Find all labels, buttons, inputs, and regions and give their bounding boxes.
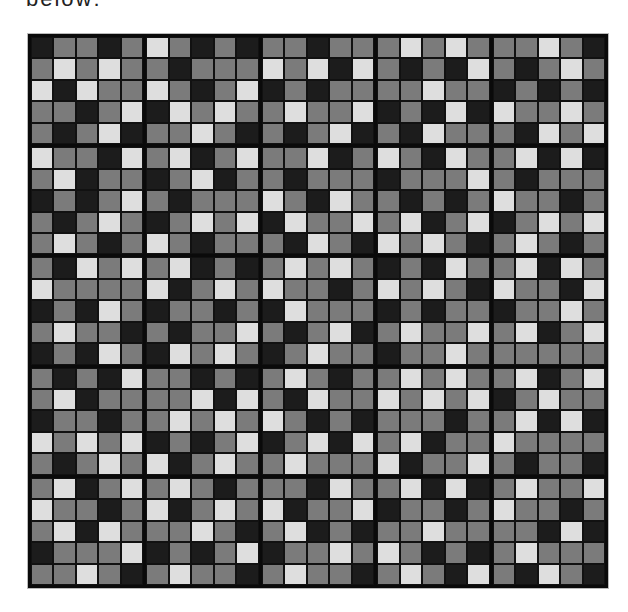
grid-cell [263,258,283,277]
grid-cell [401,38,421,57]
grid-cell [494,411,514,430]
grid-cell [263,102,283,121]
grid-cell [468,301,488,320]
grid-cell [285,522,305,541]
grid-cell [378,258,398,277]
grid-cell [584,124,604,143]
grid-cell [378,390,398,409]
grid-cell [378,565,398,584]
grid-cell [32,500,52,519]
grid-cell [494,148,514,167]
grid-block [262,478,374,585]
grid-cell [308,323,328,342]
grid-cell [516,258,536,277]
grid-cell [192,102,212,121]
grid-cell [285,500,305,519]
grid-cell [170,454,190,473]
grid-cell [353,565,373,584]
grid-cell [215,390,235,409]
grid-cell [77,479,97,498]
grid-cell [330,411,350,430]
grid-cell [308,479,328,498]
grid-cell [122,433,142,452]
grid-cell [32,543,52,562]
grid-cell [308,433,328,452]
grid-cell [308,234,328,253]
grid-cell [99,191,119,210]
grid-cell [285,170,305,189]
grid-cell [330,522,350,541]
grid-cell [215,479,235,498]
grid-cell [378,191,398,210]
grid-cell [54,500,74,519]
grid-cell [584,213,604,232]
grid-cell [561,280,581,299]
grid-cell [77,102,97,121]
grid-cell [99,148,119,167]
grid-cell [401,280,421,299]
grid-block [146,37,258,144]
grid-cell [516,565,536,584]
grid-cell [77,170,97,189]
grid-cell [215,81,235,100]
grid-cell [401,234,421,253]
grid-cell [308,344,328,363]
grid-cell [423,543,443,562]
grid-cell [32,102,52,121]
grid-cell [468,170,488,189]
grid-block [377,257,489,364]
grid-cell [77,344,97,363]
grid-cell [54,565,74,584]
grid-block [146,257,258,364]
grid-cell [330,454,350,473]
grid-cell [446,258,466,277]
grid-cell [423,170,443,189]
grid-cell [308,213,328,232]
grid-cell [237,500,257,519]
grid-cell [77,433,97,452]
grid-cell [516,522,536,541]
grid-cell [237,38,257,57]
grid-cell [32,234,52,253]
grid-cell [401,454,421,473]
grid-cell [99,59,119,78]
grid-cell [423,411,443,430]
grid-cell [215,500,235,519]
grid-cell [401,369,421,388]
grid-cell [330,543,350,562]
grid-cell [516,344,536,363]
grid-cell [401,59,421,78]
grid-cell [516,479,536,498]
grid-cell [32,390,52,409]
grid-cell [539,213,559,232]
grid-cell [122,344,142,363]
grid-cell [539,390,559,409]
grid-cell [468,148,488,167]
grid-cell [353,280,373,299]
grid-cell [32,369,52,388]
grid-cell [237,213,257,232]
grid-cell [54,258,74,277]
grid-cell [539,433,559,452]
grid-cell [192,38,212,57]
grid-cell [308,124,328,143]
grid-cell [192,323,212,342]
grid-cell [99,543,119,562]
grid-cell [423,369,443,388]
grid-cell [308,258,328,277]
grid-cell [353,148,373,167]
grid-cell [237,234,257,253]
grid-cell [378,369,398,388]
grid-cell [122,38,142,57]
grid-cell [285,454,305,473]
grid-cell [54,479,74,498]
grid-cell [539,102,559,121]
grid-cell [215,411,235,430]
grid-block [146,478,258,585]
grid-cell [561,411,581,430]
grid-cell [122,543,142,562]
grid-cell [353,38,373,57]
grid-cell [401,213,421,232]
grid-cell [32,81,52,100]
grid-cell [192,148,212,167]
